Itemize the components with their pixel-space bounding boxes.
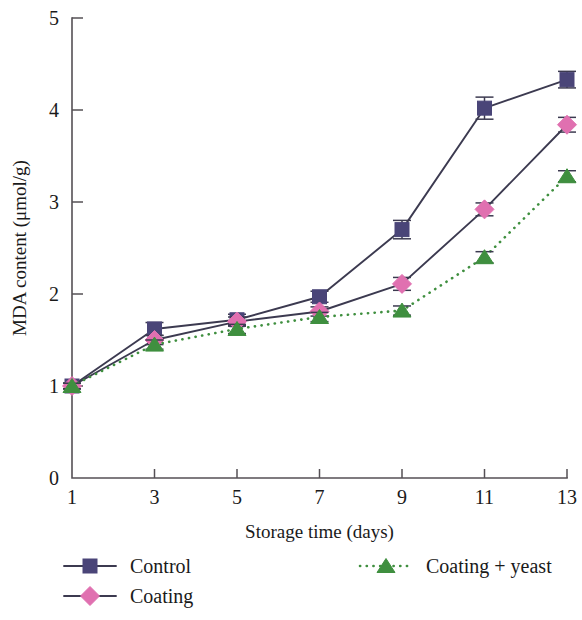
y-axis-tick-label: 4 xyxy=(49,99,59,121)
x-axis-title: Storage time (days) xyxy=(245,521,394,543)
legend-label: Coating + yeast xyxy=(414,555,552,578)
legend-marker-icon xyxy=(62,555,118,577)
y-axis-title: MDA content (μmol/g) xyxy=(9,160,31,336)
series-line-1 xyxy=(72,125,567,386)
data-point-marker-square xyxy=(83,559,97,573)
axis-spine xyxy=(72,18,567,478)
legend-swatch-triangle-icon xyxy=(358,555,414,577)
legend-column-left: ControlCoating xyxy=(62,551,193,611)
x-axis-tick-label: 1 xyxy=(67,486,77,508)
y-axis-tick-label: 0 xyxy=(49,467,59,489)
legend-marker-icon xyxy=(62,585,118,607)
x-axis-tick-label: 7 xyxy=(315,486,325,508)
data-point-marker-diamond xyxy=(81,587,100,606)
legend-item-control[interactable]: Control xyxy=(62,551,193,581)
x-axis-tick-label: 11 xyxy=(475,486,494,508)
y-axis-tick-label: 3 xyxy=(49,191,59,213)
legend-label: Control xyxy=(118,555,191,578)
data-point-marker-triangle xyxy=(393,303,411,317)
legend-item-coating-yeast[interactable]: Coating + yeast xyxy=(358,551,552,581)
legend-marker-icon xyxy=(358,555,414,577)
y-axis-tick-label: 2 xyxy=(49,283,59,305)
x-axis-tick-label: 9 xyxy=(397,486,407,508)
x-axis-tick-label: 5 xyxy=(232,486,242,508)
legend-item-coating[interactable]: Coating xyxy=(62,581,193,611)
data-point-marker-square xyxy=(560,73,574,87)
data-point-marker-square xyxy=(395,223,409,237)
chart-legend: ControlCoating Coating + yeast xyxy=(0,545,582,620)
legend-column-right: Coating + yeast xyxy=(358,551,552,581)
y-axis-tick-label: 5 xyxy=(49,7,59,29)
x-axis-tick-label: 13 xyxy=(557,486,577,508)
plot-area: 012345135791113Storage time (days)MDA co… xyxy=(0,0,582,545)
series-coating-yeast xyxy=(63,169,576,393)
figure-mda-content-chart: 012345135791113Storage time (days)MDA co… xyxy=(0,0,582,620)
legend-swatch-square-icon xyxy=(62,555,118,577)
series-control xyxy=(63,71,576,393)
data-point-marker-square xyxy=(478,101,492,115)
legend-label: Coating xyxy=(118,585,193,608)
line-chart-svg: 012345135791113Storage time (days)MDA co… xyxy=(0,0,582,545)
x-axis-tick-label: 3 xyxy=(150,486,160,508)
y-axis-tick-label: 1 xyxy=(49,375,59,397)
series-coating xyxy=(63,115,577,395)
legend-swatch-diamond-icon xyxy=(62,585,118,607)
